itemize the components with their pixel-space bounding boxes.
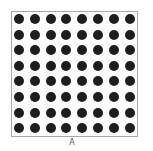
dot-grid-frame xyxy=(11,11,138,137)
grid-dot xyxy=(61,45,71,55)
grid-dot xyxy=(61,76,71,86)
grid-dot xyxy=(61,108,71,118)
grid-dot xyxy=(77,45,87,55)
grid-dot xyxy=(14,108,24,118)
grid-dot xyxy=(46,108,56,118)
grid-dot xyxy=(30,45,40,55)
grid-dot xyxy=(93,30,103,40)
grid-dot xyxy=(77,76,87,86)
grid-dot xyxy=(61,14,71,24)
grid-dot xyxy=(77,123,87,133)
grid-dot xyxy=(125,45,135,55)
figure-label: A xyxy=(66,138,78,148)
grid-dot xyxy=(30,14,40,24)
grid-dot xyxy=(14,14,24,24)
grid-dot xyxy=(109,92,119,102)
grid-dot xyxy=(14,123,24,133)
grid-dot xyxy=(93,61,103,71)
grid-dot xyxy=(93,108,103,118)
grid-dot xyxy=(30,30,40,40)
grid-dot xyxy=(46,30,56,40)
grid-dot xyxy=(30,61,40,71)
grid-dot xyxy=(77,108,87,118)
grid-dot xyxy=(61,61,71,71)
grid-dot xyxy=(125,108,135,118)
grid-dot xyxy=(61,92,71,102)
grid-dot xyxy=(77,92,87,102)
grid-dot xyxy=(46,123,56,133)
grid-dot xyxy=(93,45,103,55)
grid-dot xyxy=(30,92,40,102)
grid-dot xyxy=(14,61,24,71)
grid-dot xyxy=(109,14,119,24)
grid-dot xyxy=(109,123,119,133)
grid-dot xyxy=(109,76,119,86)
grid-dot xyxy=(14,76,24,86)
grid-dot xyxy=(30,76,40,86)
grid-dot xyxy=(125,14,135,24)
grid-dot xyxy=(46,61,56,71)
grid-dot xyxy=(61,123,71,133)
grid-dot xyxy=(125,30,135,40)
grid-dot xyxy=(46,45,56,55)
grid-dot xyxy=(125,76,135,86)
grid-dot xyxy=(14,30,24,40)
grid-dot xyxy=(46,14,56,24)
grid-dot xyxy=(125,92,135,102)
grid-dot xyxy=(46,76,56,86)
grid-dot xyxy=(77,61,87,71)
grid-dot xyxy=(14,92,24,102)
grid-dot xyxy=(109,61,119,71)
grid-dot xyxy=(93,14,103,24)
grid-dot xyxy=(61,30,71,40)
grid-dot xyxy=(46,92,56,102)
grid-dot xyxy=(109,108,119,118)
grid-dot xyxy=(93,123,103,133)
grid-dot xyxy=(30,123,40,133)
grid-dot xyxy=(93,76,103,86)
grid-dot xyxy=(93,92,103,102)
grid-dot xyxy=(109,45,119,55)
grid-dot xyxy=(125,123,135,133)
grid-dot xyxy=(14,45,24,55)
grid-dot xyxy=(109,30,119,40)
grid-dot xyxy=(77,14,87,24)
grid-dot xyxy=(30,108,40,118)
grid-dot xyxy=(125,61,135,71)
grid-dot xyxy=(77,30,87,40)
